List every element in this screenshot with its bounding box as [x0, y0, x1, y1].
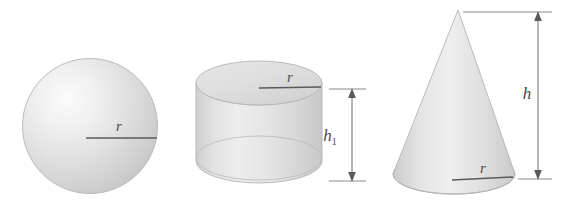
- cylinder-shape: [196, 61, 322, 183]
- sphere-body: [23, 59, 158, 194]
- cylinder-height-label: h1: [323, 126, 337, 147]
- cylinder-height-label-subscript: 1: [332, 136, 337, 147]
- cylinder-height-dimension: [329, 88, 366, 182]
- figure-canvas: r r h1: [0, 0, 565, 214]
- cylinder-radius-line: [259, 87, 321, 88]
- cylinder-radius-label: r: [287, 69, 293, 85]
- cone-shape: [393, 10, 515, 194]
- sphere-shape: [23, 59, 158, 194]
- cylinder-top-disc: [196, 61, 322, 105]
- cone-radius-label: r: [480, 160, 486, 176]
- cylinder-height-label-base: h: [323, 126, 332, 145]
- cone-body: [393, 10, 515, 194]
- sphere-radius-label: r: [116, 118, 122, 134]
- cone-height-label-base: h: [523, 84, 532, 103]
- cone-height-label: h: [523, 84, 532, 103]
- geometric-solids-figure: r r h1: [0, 0, 565, 214]
